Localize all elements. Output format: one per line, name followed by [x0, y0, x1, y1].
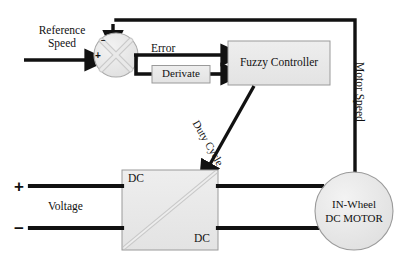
block-diagram-canvas: Reference Speed − + Error Derivate Fuzzy…	[0, 0, 408, 264]
motor-speed-label: Motor Speed	[353, 62, 366, 122]
error-to-derivate	[136, 57, 150, 74]
supply-minus-sign: −	[14, 220, 24, 237]
supply-plus-sign: +	[14, 178, 24, 195]
voltage-label: Voltage	[48, 200, 83, 213]
motor-label-line1: IN-Wheel	[315, 198, 393, 210]
reference-speed-label: Reference Speed	[18, 24, 106, 50]
in-wheel-dc-motor	[315, 172, 393, 250]
chopper-bottom-dc-label: DC	[194, 232, 210, 245]
junction-plus-sign: +	[95, 51, 101, 61]
chopper-top-dc-label: DC	[128, 172, 144, 185]
fuzzy-controller-label: Fuzzy Controller	[228, 56, 330, 68]
derivate-block-label: Derivate	[152, 67, 210, 79]
motor-label-line2: DC MOTOR	[313, 212, 395, 224]
error-label: Error	[151, 42, 175, 55]
junction-minus-sign: −	[101, 37, 106, 45]
